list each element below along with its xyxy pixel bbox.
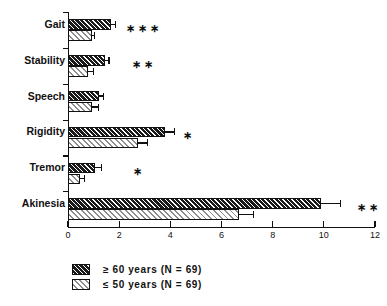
bar-chart-figure: 024681012 GaitStabilitySpeechRigidityTre… <box>0 0 387 306</box>
legend-item-younger: ≤ 50 years (N = 69) <box>72 277 202 292</box>
error-cap-stability-younger <box>93 68 94 75</box>
x-tick <box>374 221 375 227</box>
bar-akinesia-younger <box>68 209 239 220</box>
x-tick-label: 0 <box>58 230 78 241</box>
bar-speech-younger <box>68 102 92 113</box>
category-label-tremor: Tremor <box>29 161 65 173</box>
significance-marker-tremor: ∗ <box>133 166 145 177</box>
light-hatch-swatch-icon <box>72 279 90 290</box>
legend-label-older: ≥ 60 years (N = 69) <box>103 264 202 275</box>
error-cap-speech-older <box>103 93 104 100</box>
bar-gait-younger <box>68 30 92 41</box>
dark-hatch-swatch-icon <box>72 264 90 275</box>
significance-marker-akinesia: ∗∗ <box>357 202 382 213</box>
y-tick <box>63 155 68 156</box>
legend-label-younger: ≤ 50 years (N = 69) <box>103 279 202 290</box>
x-tick <box>272 221 273 227</box>
x-tick-label: 4 <box>160 230 180 241</box>
category-label-akinesia: Akinesia <box>22 197 65 209</box>
error-cap-gait-older <box>115 21 116 28</box>
bar-stability-older <box>68 55 105 66</box>
error-cap-rigidity-older <box>174 128 175 135</box>
significance-marker-gait: ∗∗∗ <box>126 23 163 34</box>
bar-tremor-older <box>68 163 95 174</box>
category-label-speech: Speech <box>28 90 65 102</box>
category-label-gait: Gait <box>45 18 65 30</box>
x-tick <box>221 221 222 227</box>
error-cap-gait-younger <box>94 32 95 39</box>
x-tick-label: 12 <box>365 230 385 241</box>
bar-rigidity-older <box>68 127 165 138</box>
x-tick-label: 10 <box>314 230 334 241</box>
x-tick-label: 2 <box>109 230 129 241</box>
x-tick <box>119 221 120 227</box>
legend-item-older: ≥ 60 years (N = 69) <box>72 262 202 277</box>
x-tick <box>323 221 324 227</box>
x-tick <box>67 221 68 227</box>
error-cap-akinesia-older <box>340 200 341 207</box>
error-cap-stability-older <box>108 57 109 64</box>
bar-rigidity-younger <box>68 138 138 149</box>
bar-speech-older <box>68 91 99 102</box>
y-axis-line <box>68 12 69 228</box>
y-tick <box>63 48 68 49</box>
significance-marker-rigidity: ∗ <box>183 130 195 141</box>
error-cap-speech-younger <box>98 104 99 111</box>
error-cap-akinesia-younger <box>253 211 254 218</box>
bar-gait-older <box>68 19 111 30</box>
x-tick-label: 6 <box>212 230 232 241</box>
chart-legend: ≥ 60 years (N = 69) ≤ 50 years (N = 69) <box>72 262 202 292</box>
y-tick <box>63 84 68 85</box>
bar-stability-younger <box>68 66 88 77</box>
error-cap-tremor-younger <box>84 175 85 182</box>
bar-akinesia-older <box>68 198 321 209</box>
significance-marker-stability: ∗∗ <box>132 59 157 70</box>
error-cap-rigidity-younger <box>147 139 148 146</box>
x-tick <box>170 221 171 227</box>
y-tick <box>63 191 68 192</box>
bar-tremor-younger <box>68 174 80 185</box>
error-cap-tremor-older <box>101 164 102 171</box>
x-tick-label: 8 <box>263 230 283 241</box>
error-bar-akinesia-younger <box>239 214 253 215</box>
error-bar-akinesia-older <box>321 203 340 204</box>
x-axis-line <box>68 227 375 228</box>
category-label-stability: Stability <box>24 54 65 66</box>
category-label-rigidity: Rigidity <box>27 125 66 137</box>
y-tick <box>63 12 68 13</box>
y-tick <box>63 120 68 121</box>
